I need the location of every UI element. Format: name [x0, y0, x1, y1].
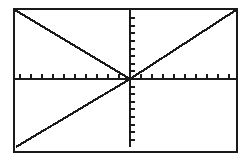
- graph-canvas: [0, 0, 240, 163]
- graph-screenshot: [0, 0, 240, 163]
